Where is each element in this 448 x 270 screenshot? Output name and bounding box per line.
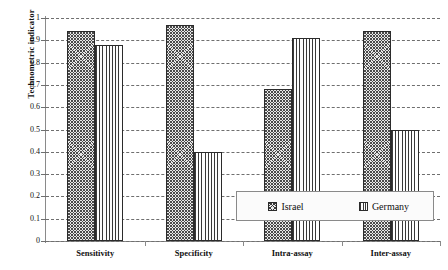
legend-swatch-israel-icon (268, 202, 277, 211)
bar-group (166, 18, 222, 241)
y-axis-tick-label: 0.6 (2, 103, 40, 111)
y-axis-tick-label: 0.2 (2, 192, 40, 200)
chart-legend: Israel Germany (236, 191, 434, 221)
x-axis-tick (243, 241, 244, 246)
y-axis-tick (41, 219, 46, 220)
y-axis-tick (41, 107, 46, 108)
y-axis-tick (41, 152, 46, 153)
bar-group (67, 18, 123, 241)
y-axis-tick (41, 174, 46, 175)
bar-germany-sensitivity (95, 45, 123, 241)
y-axis-tick-label: 0.9 (2, 36, 40, 44)
bar-germany-inter-assay (391, 130, 419, 242)
x-axis-category-label: Intra-assay (243, 248, 342, 258)
x-axis-tick (440, 241, 441, 246)
y-axis-tick-label: 0.7 (2, 81, 40, 89)
legend-label-israel: Israel (281, 201, 303, 212)
y-axis-tick-label: 0.3 (2, 170, 40, 178)
x-axis-tick (342, 241, 343, 246)
y-axis-tick (41, 40, 46, 41)
y-axis-tick (41, 63, 46, 64)
legend-item-israel: Israel (237, 201, 335, 212)
y-axis-tick-label: 0.4 (2, 148, 40, 156)
x-axis-category-label: Specificity (145, 248, 244, 258)
y-axis-tick (41, 241, 46, 242)
y-axis-tick (41, 85, 46, 86)
y-axis-tick (41, 18, 46, 19)
y-axis-tick-label: 0 (2, 237, 40, 245)
y-axis-tick (41, 130, 46, 131)
x-axis-tick (145, 241, 146, 246)
x-axis-category-label: Inter-assay (342, 248, 441, 258)
legend-item-germany: Germany (335, 201, 433, 212)
y-axis-tick-label: 0.5 (2, 126, 40, 134)
bar-chart: Technometric indicator 00.10.20.30.40.50… (0, 0, 448, 270)
y-axis-tick-label: 1 (2, 14, 40, 22)
y-axis-tick-label: 0.1 (2, 215, 40, 223)
x-axis-category-label: Sensitivity (46, 248, 145, 258)
legend-swatch-germany-icon (359, 202, 368, 211)
bar-israel-sensitivity (67, 31, 95, 241)
bar-germany-specificity (194, 152, 222, 241)
y-axis-tick (41, 196, 46, 197)
y-axis-tick-label: 0.8 (2, 59, 40, 67)
y-axis-tick-labels: 00.10.20.30.40.50.60.70.80.91 (0, 0, 40, 270)
legend-label-germany: Germany (372, 201, 409, 212)
bar-israel-specificity (166, 25, 194, 241)
